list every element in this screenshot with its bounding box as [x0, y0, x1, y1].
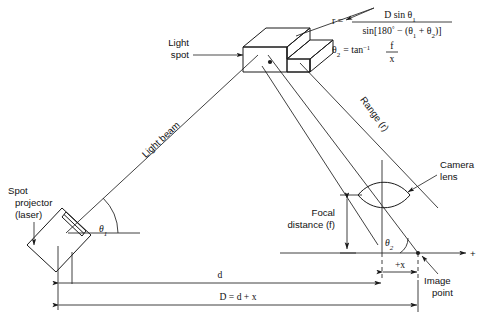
formula-r-denominator: sin[180° − (θ1 + θ2)]: [362, 25, 441, 41]
formula-theta2-num: f: [390, 40, 394, 51]
figure-canvas: Light spot r = D sin θ1 sin[180° − (θ1 +…: [0, 0, 482, 320]
theta2-arc: [400, 238, 408, 253]
image-point-label-group: Image point: [422, 256, 453, 298]
formula-block: r = D sin θ1 sin[180° − (θ1 + θ2)] θ2= t…: [332, 9, 452, 64]
block-step-top-face: [287, 40, 333, 59]
image-point-leader: [422, 256, 438, 274]
spot-projector-label-line1: Spot: [8, 185, 28, 196]
light-spot-block: [243, 28, 333, 72]
big-d-dimension-group: D = d + x: [59, 280, 418, 312]
spot-projector-label-line2: projector: [15, 197, 53, 208]
plus-x-dimension-group: +x: [382, 253, 418, 280]
light-spot-label-line1: Light: [168, 37, 189, 48]
laser-aperture-midline: [64, 215, 84, 234]
spot-projector-laser: θ1: [27, 198, 140, 272]
upper-beam-arrow: [346, 8, 374, 20]
axis-plus-label: +: [470, 248, 476, 259]
big-d-label: D = d + x: [220, 291, 257, 302]
image-point-label-line1: Image: [424, 275, 451, 286]
focal-distance-label-line1: Focal: [312, 207, 335, 218]
camera-lens-group: Camera lens: [358, 159, 475, 253]
light-beam-label: Light beam: [140, 119, 182, 159]
plus-x-label: +x: [395, 259, 405, 270]
block-step-right-face: [310, 40, 333, 72]
formula-theta2-den: x: [390, 53, 395, 64]
camera-lens: [358, 182, 410, 208]
camera-lens-label-line2: lens: [440, 171, 458, 182]
block-top-left-face: [243, 28, 310, 47]
d-label: d: [218, 269, 223, 280]
formula-theta2: θ2= tan−1: [332, 44, 370, 60]
focal-distance-label-line2: distance (f): [288, 219, 335, 230]
light-spot-marker: [268, 60, 272, 64]
range-label: Range (r): [358, 94, 391, 133]
optical-axis-group: + θ2: [280, 237, 476, 259]
theta1-label: θ1: [99, 223, 107, 238]
camera-lens-label-line1: Camera: [440, 159, 475, 170]
camera-lens-leader: [408, 175, 437, 192]
theta1-arc: [103, 198, 118, 233]
block-front-left-face: [243, 47, 287, 72]
light-spot-label-line2: spot: [171, 49, 189, 60]
light-spot-label-group: Light spot: [168, 37, 243, 60]
formula-r-lhs: r =: [332, 15, 344, 26]
theta2-label: θ2: [385, 237, 394, 252]
spot-projector-label-line3: (laser): [15, 209, 42, 220]
spot-projector-label-group: Spot projector (laser): [8, 185, 53, 245]
optical-triangulation-diagram: Light spot r = D sin θ1 sin[180° − (θ1 +…: [0, 0, 482, 320]
image-point-label-line2: point: [432, 287, 453, 298]
